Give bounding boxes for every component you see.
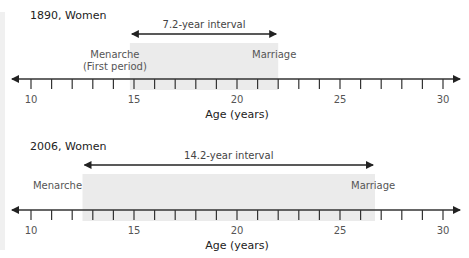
tick-label: 20	[231, 225, 244, 236]
tick-label: 15	[128, 225, 141, 236]
tick-label: 20	[231, 94, 244, 105]
axis-label: Age (years)	[205, 108, 269, 121]
marriage-label: Marriage	[252, 49, 296, 60]
menarche-label: Menarche	[90, 49, 139, 60]
menarche-label: (First period)	[83, 61, 147, 72]
interval-label: 7.2-year interval	[163, 19, 246, 30]
interval-label: 14.2-year interval	[184, 150, 273, 161]
tick-label: 30	[437, 225, 450, 236]
timeline-diagram: 1890, Women7.2-year intervalMenarche(Fir…	[0, 0, 469, 258]
menarche-label: Menarche	[33, 180, 82, 191]
tick-label: 25	[334, 225, 347, 236]
marriage-label: Marriage	[351, 180, 395, 191]
tick-label: 15	[128, 94, 141, 105]
panel-title: 2006, Women	[30, 140, 106, 153]
tick-label: 30	[437, 94, 450, 105]
interval-shade	[83, 174, 376, 221]
tick-label: 25	[334, 94, 347, 105]
axis-label: Age (years)	[205, 239, 269, 252]
tick-label: 10	[25, 225, 38, 236]
panel-title: 1890, Women	[30, 9, 106, 22]
tick-label: 10	[25, 94, 38, 105]
